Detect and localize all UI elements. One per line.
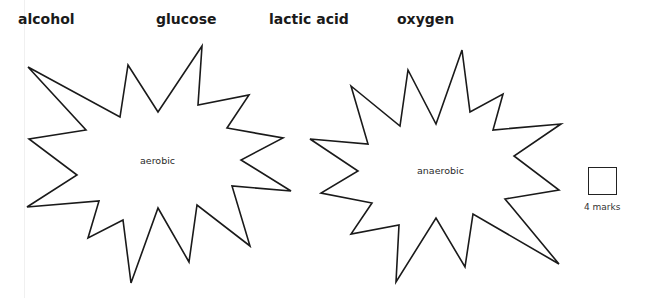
marks-box xyxy=(588,167,617,195)
aerobic-label: aerobic xyxy=(140,155,175,166)
marks-label: 4 marks xyxy=(584,202,620,212)
starburst-shapes xyxy=(0,0,645,298)
anaerobic-label: anaerobic xyxy=(417,165,464,176)
